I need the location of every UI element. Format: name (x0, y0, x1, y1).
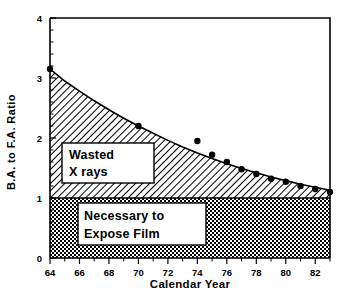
wasted-x-rays-line1: Wasted (69, 148, 114, 162)
data-point (238, 166, 244, 172)
x-tick-label: 72 (163, 267, 174, 278)
y-tick-label: 3 (37, 73, 42, 84)
y-tick-label: 0 (37, 253, 42, 264)
data-point (253, 171, 259, 177)
data-point (135, 123, 141, 129)
data-point (194, 138, 200, 144)
necessary-line2: Expose Film (84, 227, 160, 241)
y-tick-label: 1 (37, 193, 43, 204)
x-tick-label: 64 (45, 267, 56, 278)
x-tick-label: 66 (74, 267, 85, 278)
data-point (268, 176, 274, 182)
data-point (224, 159, 230, 165)
x-tick-label: 80 (281, 267, 292, 278)
data-point (312, 186, 318, 192)
annotation-necessary-to-expose-film: Necessary to Expose Film (78, 203, 206, 245)
x-tick-label: 74 (192, 267, 203, 278)
data-point (283, 179, 289, 185)
necessary-line1: Necessary to (84, 209, 164, 223)
x-axis-title: Calendar Year (150, 278, 231, 290)
y-axis-title: B.A. to F.A. Ratio (5, 94, 17, 190)
y-tick-label: 4 (37, 13, 43, 24)
x-tick-label: 82 (310, 267, 321, 278)
x-tick-label: 70 (133, 267, 144, 278)
x-tick-label: 76 (222, 267, 233, 278)
x-tick-label: 68 (104, 267, 115, 278)
data-point (209, 152, 215, 158)
y-tick-label: 2 (37, 133, 42, 144)
annotation-wasted-x-rays: Wasted X rays (62, 143, 154, 183)
wasted-x-rays-line2: X rays (69, 165, 108, 179)
data-point (297, 183, 303, 189)
chart-figure: 01234 64666870727476788082 Wasted X rays… (0, 0, 344, 300)
x-tick-label: 78 (251, 267, 262, 278)
